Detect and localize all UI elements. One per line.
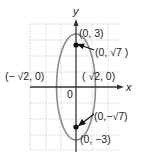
label-right-covertex: ( √2, 0) bbox=[82, 70, 115, 82]
x-axis-arrow-icon bbox=[117, 85, 124, 90]
origin-label: 0 bbox=[67, 88, 73, 100]
label-bottom-vertex: (0, −3) bbox=[80, 133, 111, 145]
label-top-vertex: (0, 3) bbox=[79, 27, 104, 39]
ellipse-diagram: y x 0 (0, 3) (0, √7 ) (− √2, 0) ( √2, 0)… bbox=[0, 0, 142, 154]
y-axis-arrow-icon bbox=[74, 19, 79, 26]
label-left-covertex: (− √2, 0) bbox=[5, 70, 44, 82]
y-axis-label: y bbox=[72, 5, 80, 17]
x-axis-label: x bbox=[125, 81, 132, 93]
label-top-focus: (0, √7 ) bbox=[95, 46, 128, 58]
label-bottom-focus: (0,−√7) bbox=[94, 110, 127, 122]
focus-point-bottom bbox=[73, 124, 78, 129]
